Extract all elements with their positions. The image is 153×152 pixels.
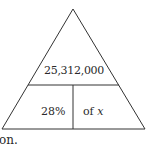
variable-x: x [97, 105, 103, 118]
top-cell-value: 25,312,000 [44, 64, 104, 77]
trailing-text-fragment: on. [0, 133, 18, 147]
bottom-left-cell-percent: 28% [41, 105, 65, 118]
of-label: of [83, 105, 97, 118]
bottom-right-cell-of-x: of x [83, 105, 103, 118]
